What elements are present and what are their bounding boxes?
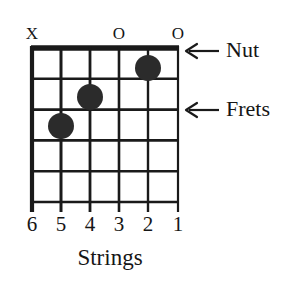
string-marker-muted-6: X: [26, 25, 38, 42]
finger-dot-string4-fret2: [77, 84, 103, 110]
string-marker-open-1: O: [172, 25, 184, 42]
string-number-2: 2: [143, 214, 154, 235]
fret-lines-group: [32, 79, 178, 202]
finger-dot-string2-fret1: [135, 55, 161, 81]
frets-callout-arrow: [186, 103, 219, 117]
nut-callout-arrow: [186, 44, 219, 58]
string-number-4: 4: [85, 214, 96, 235]
string-marker-open-3: O: [113, 25, 125, 42]
finger-dot-string5-fret3: [48, 113, 74, 139]
chord-diagram: X O O 6 5 4 3 2 1 Strings Nut Frets: [0, 0, 295, 284]
strings-axis-caption: Strings: [77, 246, 142, 269]
string-number-5: 5: [56, 214, 67, 235]
finger-dots-group: [48, 55, 161, 139]
string-number-3: 3: [114, 214, 125, 235]
string-number-6: 6: [27, 214, 38, 235]
nut-callout-label: Nut: [226, 39, 259, 61]
frets-callout-label: Frets: [226, 98, 270, 120]
string-number-1: 1: [173, 214, 184, 235]
